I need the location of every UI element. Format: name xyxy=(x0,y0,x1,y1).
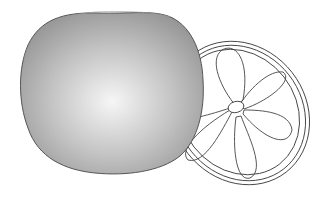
citrus-illustration: Citrus fruit with cut slice xyxy=(0,0,318,199)
whole-fruit-body xyxy=(21,13,204,174)
whole-fruit xyxy=(21,12,204,174)
citrus-drawing xyxy=(0,0,318,199)
